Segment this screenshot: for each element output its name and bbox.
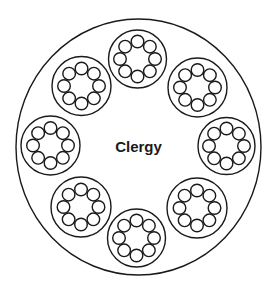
member-circle <box>238 140 251 153</box>
member-circle <box>118 244 131 257</box>
member-circle <box>233 127 246 140</box>
group-1 <box>109 30 167 88</box>
member-circle <box>32 152 45 165</box>
group-5 <box>108 209 166 267</box>
group-8 <box>52 57 111 116</box>
member-circle <box>149 53 162 66</box>
member-circle <box>44 122 57 135</box>
group-2 <box>168 58 227 117</box>
member-circle <box>208 152 221 165</box>
member-circle <box>87 188 100 201</box>
group-7 <box>21 116 80 175</box>
member-circle <box>62 213 75 226</box>
member-circle <box>114 53 127 66</box>
member-circle <box>44 157 57 170</box>
group-circle <box>51 177 111 237</box>
member-circle <box>57 127 70 140</box>
member-circle <box>93 80 106 93</box>
member-circle <box>130 214 143 227</box>
member-circle <box>233 152 246 165</box>
member-circle <box>144 65 157 78</box>
member-circle <box>62 139 75 152</box>
member-circle <box>179 94 192 107</box>
member-circle <box>203 214 216 227</box>
clergy-diagram: Clergy <box>0 0 274 292</box>
member-circle <box>119 65 132 78</box>
member-circle <box>119 40 132 53</box>
member-circle <box>75 97 88 110</box>
center-label: Clergy <box>115 138 162 155</box>
member-circle <box>87 213 100 226</box>
member-circle <box>143 244 156 257</box>
member-circle <box>209 81 222 94</box>
group-3 <box>198 118 255 175</box>
member-circle <box>92 201 105 214</box>
member-circle <box>57 201 70 214</box>
member-circle <box>75 218 88 231</box>
group-circle <box>168 58 227 117</box>
group-circle <box>109 30 167 88</box>
member-circle <box>75 183 88 196</box>
member-circle <box>27 139 40 152</box>
member-circle <box>63 92 76 105</box>
member-circle <box>62 188 75 201</box>
group-circle <box>21 116 80 175</box>
member-circle <box>57 152 70 165</box>
member-circle <box>203 189 216 202</box>
member-circle <box>191 99 204 112</box>
member-circle <box>191 184 204 197</box>
member-circle <box>204 69 217 82</box>
member-circle <box>32 127 45 140</box>
group-circle <box>52 57 111 116</box>
member-circle <box>178 189 191 202</box>
member-circle <box>174 81 187 94</box>
group-circle <box>108 209 166 267</box>
member-circle <box>173 202 186 215</box>
member-circle <box>118 219 131 232</box>
member-circle <box>131 35 144 48</box>
member-circle <box>144 40 157 53</box>
member-circle <box>75 62 88 75</box>
member-circle <box>191 219 204 232</box>
group-4 <box>167 178 227 238</box>
member-circle <box>130 249 143 262</box>
member-circle <box>131 70 144 83</box>
member-circle <box>204 94 217 107</box>
member-circle <box>88 92 101 105</box>
member-circle <box>148 232 161 245</box>
member-circle <box>179 69 192 82</box>
group-circle <box>198 118 255 175</box>
member-circle <box>113 232 126 245</box>
member-circle <box>63 67 76 80</box>
member-circle <box>178 214 191 227</box>
member-circle <box>191 64 204 77</box>
member-circle <box>58 80 71 93</box>
member-circle <box>208 202 221 215</box>
group-circle <box>167 178 227 238</box>
member-circle <box>203 140 216 153</box>
member-circle <box>208 127 221 140</box>
group-6 <box>51 177 111 237</box>
member-circle <box>88 67 101 80</box>
member-circle <box>143 219 156 232</box>
member-circle <box>220 157 233 170</box>
member-circle <box>220 122 233 135</box>
